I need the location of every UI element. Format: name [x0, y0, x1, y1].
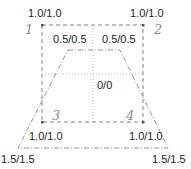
label-bottom-left-outer: 1.5/1.5 — [1, 153, 35, 165]
corner-number-4: 4 — [125, 108, 134, 123]
corner-number-3: 3 — [52, 108, 60, 123]
corner-point-3[interactable] — [41, 121, 44, 124]
corner-point-1[interactable] — [41, 24, 44, 27]
label-top-left-inner: 0.5/0.5 — [53, 33, 87, 45]
keystone-diagram: 1 2 3 4 1.0/1.0 1.0/1.0 0.5/0.5 0.5/0.5 … — [0, 0, 191, 169]
corner-number-1: 1 — [25, 22, 33, 37]
corner-point-4[interactable] — [142, 121, 145, 124]
label-center: 0/0 — [97, 79, 112, 91]
label-top-right-outer: 1.0/1.0 — [130, 7, 164, 19]
label-bottom-right-inner: 1.0/1.0 — [129, 130, 163, 142]
corner-number-2: 2 — [153, 22, 162, 37]
label-bottom-left-inner: 1.0/1.0 — [29, 130, 63, 142]
label-bottom-right-outer: 1.5/1.5 — [152, 153, 186, 165]
corner-point-2[interactable] — [142, 24, 145, 27]
label-top-left-outer: 1.0/1.0 — [28, 7, 62, 19]
label-top-right-inner: 0.5/0.5 — [102, 33, 136, 45]
